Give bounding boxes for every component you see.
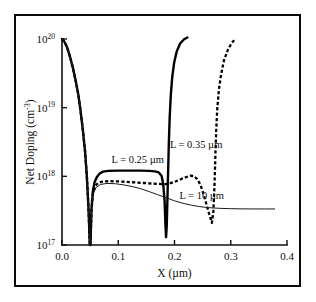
- x-tick-label-0.0: 0.0: [55, 250, 69, 262]
- y-tick-label-17: 1017: [37, 238, 56, 252]
- y-tick-label-20: 1020: [37, 32, 56, 46]
- x-tick-label-0.1: 0.1: [111, 250, 125, 262]
- chart-plot: 1020101910181017 0.00.10.20.30.4 X (µm) …: [0, 0, 316, 302]
- x-tick-labels: 0.00.10.20.30.4: [55, 250, 294, 262]
- y-tick-labels: 1020101910181017: [37, 32, 56, 252]
- x-tick-label-0.2: 0.2: [168, 250, 182, 262]
- y-tick-label-18: 1018: [37, 169, 56, 183]
- y-tick-label-19: 1019: [37, 100, 56, 114]
- figure-container: 1020101910181017 0.00.10.20.30.4 X (µm) …: [0, 0, 316, 302]
- x-axis-title: X (µm): [157, 267, 192, 280]
- data-series-group: [62, 38, 275, 245]
- curve-annotation-2: L = 10 µm: [179, 190, 224, 201]
- x-tick-label-0.3: 0.3: [224, 250, 238, 262]
- curve-annotation-1: L = 0.35 µm: [170, 139, 222, 150]
- curve-annotation-0: L = 0.25 µm: [112, 154, 164, 165]
- curve-series-0: [62, 38, 187, 245]
- x-tick-label-0.4: 0.4: [280, 250, 294, 262]
- y-axis-title: Net Doping (cm-3): [23, 99, 37, 184]
